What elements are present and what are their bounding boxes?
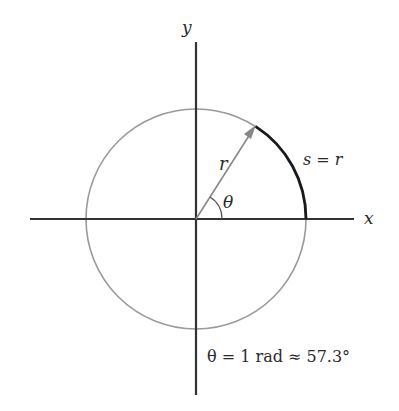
radius-label: r (219, 153, 229, 174)
arc-s (256, 126, 307, 219)
radian-diagram: y x r θ s = r θ = 1 rad ≈ 57.3° (0, 0, 399, 411)
angle-arc (210, 197, 222, 219)
x-axis-label: x (364, 208, 374, 228)
angle-label: θ (223, 192, 233, 212)
caption: θ = 1 rad ≈ 57.3° (207, 347, 350, 366)
arc-label: s = r (303, 150, 344, 169)
arrowhead-icon (244, 125, 256, 139)
y-axis-label: y (181, 17, 192, 37)
